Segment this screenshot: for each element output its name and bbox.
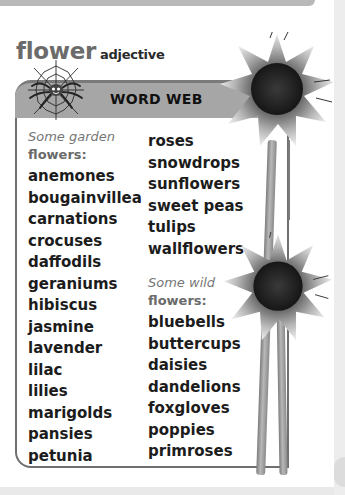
list-item: jasmine	[28, 317, 142, 339]
list-item: sunflowers	[148, 174, 244, 196]
spider-web-icon	[22, 58, 90, 122]
garden-flowers-column-left: Some garden flowers: anemones bougainvil…	[28, 128, 142, 467]
list-item: foxgloves	[148, 398, 244, 420]
list-item: daffodils	[28, 252, 142, 274]
sunflower-bottom-icon	[222, 232, 334, 344]
list-item: lilies	[28, 381, 142, 403]
bottom-page-band	[0, 487, 334, 495]
list-item: snowdrops	[148, 153, 244, 175]
list-item: sweet peas	[148, 196, 244, 218]
list-item: poppies	[148, 420, 244, 442]
sunflower-top-icon	[218, 32, 336, 150]
list-item: bougainvillea	[28, 188, 142, 210]
list-item: marigolds	[28, 403, 142, 425]
list-item: anemones	[28, 166, 142, 188]
garden-intro-italic: Some garden	[28, 128, 142, 146]
list-item: pansies	[28, 424, 142, 446]
list-item: lilac	[28, 360, 142, 382]
list-item: petunia	[28, 446, 142, 468]
list-item: primroses	[148, 441, 244, 463]
word-web-title: WORD WEB	[110, 91, 203, 107]
list-item: crocuses	[28, 231, 142, 253]
list-item: dandelions	[148, 377, 244, 399]
part-of-speech: adjective	[100, 47, 164, 62]
list-item: hibiscus	[28, 295, 142, 317]
top-page-band	[0, 0, 315, 6]
box-edge-line	[288, 140, 290, 220]
list-item: daisies	[148, 355, 244, 377]
garden-intro-bold: flowers:	[28, 146, 142, 164]
list-item: lavender	[28, 338, 142, 360]
list-item: carnations	[28, 209, 142, 231]
list-item: geraniums	[28, 274, 142, 296]
